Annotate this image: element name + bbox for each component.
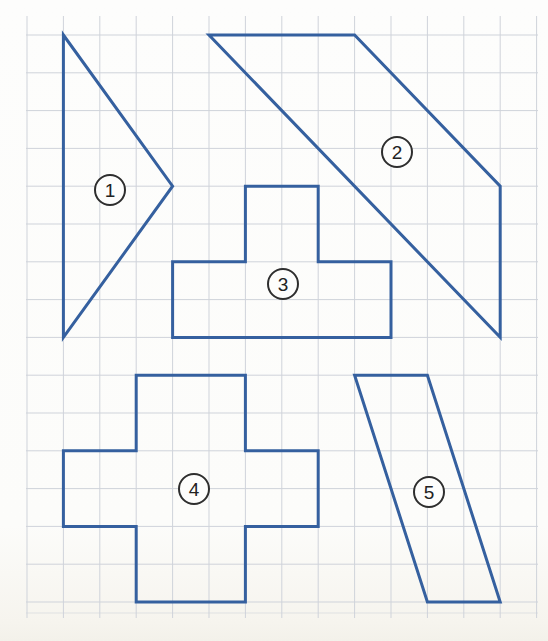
worksheet-page: 12345 [0, 0, 548, 641]
shape-2-label: 2 [382, 137, 412, 167]
shape-5-label-number: 5 [424, 482, 435, 503]
shape-1-label-number: 1 [105, 180, 116, 201]
shape-1-label: 1 [95, 175, 125, 205]
shape-3-label: 3 [268, 269, 298, 299]
shape-5-label: 5 [414, 477, 444, 507]
grid-shapes-diagram: 12345 [0, 0, 548, 641]
shape-3-label-number: 3 [278, 274, 289, 295]
shape-4-label-number: 4 [189, 479, 200, 500]
shape-4-label: 4 [179, 474, 209, 504]
shape-2-label-number: 2 [392, 142, 403, 163]
